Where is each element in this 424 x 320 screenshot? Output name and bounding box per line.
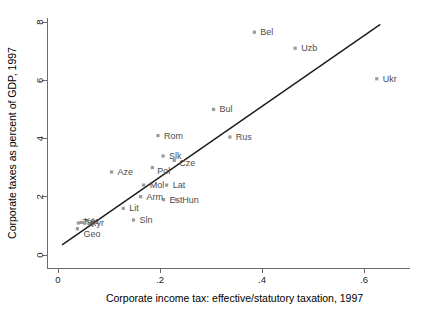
point-marker bbox=[132, 218, 135, 221]
point-label: Mol bbox=[150, 180, 165, 190]
data-point: Lit bbox=[122, 203, 140, 213]
data-point: Est bbox=[162, 195, 183, 205]
point-marker bbox=[122, 207, 125, 210]
point-marker bbox=[77, 221, 80, 224]
x-axis-tick-label: .2 bbox=[156, 274, 164, 285]
point-marker bbox=[228, 135, 231, 138]
data-point: Slk bbox=[161, 151, 182, 161]
fit-line bbox=[62, 24, 380, 244]
y-axis-title: Corporate taxes as percent of GDP, 1997 bbox=[6, 47, 18, 239]
data-point: Sln bbox=[132, 215, 153, 225]
point-label: Ukr bbox=[383, 74, 397, 84]
point-marker bbox=[156, 134, 159, 137]
point-marker bbox=[110, 170, 113, 173]
point-marker bbox=[80, 221, 83, 224]
data-point: Uzb bbox=[294, 43, 318, 53]
data-point: Bel bbox=[253, 27, 274, 37]
point-marker bbox=[253, 31, 256, 34]
y-axis-tick-label: 2 bbox=[34, 194, 45, 199]
point-marker bbox=[165, 184, 168, 187]
data-point: Lat bbox=[165, 180, 186, 190]
x-axis-tick-label: 0 bbox=[55, 274, 60, 285]
point-label: Arm bbox=[147, 192, 164, 202]
point-label: Bul bbox=[220, 104, 233, 114]
point-marker bbox=[161, 154, 164, 157]
data-point: Pol bbox=[151, 166, 171, 176]
point-label: Rom bbox=[164, 131, 183, 141]
regression-line bbox=[62, 24, 380, 244]
axis-titles: Corporate income tax: effective/statutor… bbox=[6, 47, 363, 304]
x-axis-title: Corporate income tax: effective/statutor… bbox=[106, 292, 363, 304]
point-marker bbox=[142, 184, 145, 187]
plot-canvas: 024680.2.4.6 GeoTajKazKyrSlnLitEstHunArm… bbox=[0, 0, 424, 320]
point-label: Lit bbox=[129, 203, 139, 213]
point-marker bbox=[175, 198, 178, 201]
point-marker bbox=[83, 221, 86, 224]
data-point: Rus bbox=[228, 132, 252, 142]
axes: 024680.2.4.6 bbox=[34, 18, 411, 285]
point-label: Cze bbox=[179, 158, 195, 168]
point-marker bbox=[375, 77, 378, 80]
point-label: Sln bbox=[139, 215, 152, 225]
x-axis-tick-label: .4 bbox=[258, 274, 266, 285]
point-marker bbox=[76, 227, 79, 230]
point-label: Slk bbox=[169, 151, 182, 161]
point-label: Geo bbox=[83, 229, 100, 239]
data-point: Bul bbox=[212, 104, 233, 114]
y-axis-tick-label: 8 bbox=[34, 19, 45, 24]
point-marker bbox=[139, 195, 142, 198]
data-point: Mol bbox=[142, 180, 164, 190]
data-points: GeoTajKazKyrSlnLitEstHunArmMolLatAzePolC… bbox=[76, 27, 397, 239]
x-axis-tick-label: .6 bbox=[360, 274, 368, 285]
point-label: Lat bbox=[173, 180, 186, 190]
point-marker bbox=[294, 47, 297, 50]
y-axis-tick-label: 0 bbox=[34, 252, 45, 257]
point-marker bbox=[151, 166, 154, 169]
point-label: Uzb bbox=[301, 43, 317, 53]
point-label: Pol bbox=[157, 166, 170, 176]
y-axis-tick-label: 4 bbox=[34, 136, 45, 141]
data-point: Aze bbox=[110, 167, 133, 177]
point-marker bbox=[212, 108, 215, 111]
data-point: Arm bbox=[139, 192, 163, 202]
point-label: Rus bbox=[236, 132, 253, 142]
point-label: Bel bbox=[260, 27, 273, 37]
point-label: Hun bbox=[182, 195, 199, 205]
scatter-plot-figure: 024680.2.4.6 GeoTajKazKyrSlnLitEstHunArm… bbox=[0, 0, 424, 320]
data-point: Rom bbox=[156, 131, 183, 141]
point-label: Aze bbox=[118, 167, 134, 177]
y-axis-tick-label: 6 bbox=[34, 78, 45, 83]
data-point: Ukr bbox=[375, 74, 397, 84]
point-label: Kyr bbox=[91, 218, 105, 228]
